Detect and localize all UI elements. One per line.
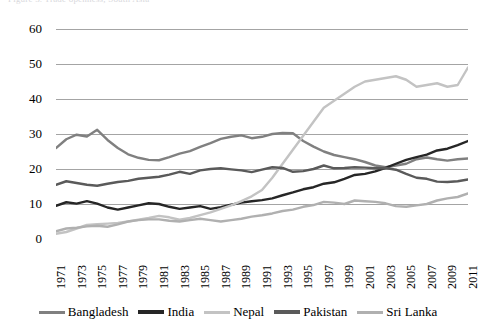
y-axis-tick-labels: 0102030405060	[0, 0, 52, 332]
y-axis-tick-10: 10	[0, 197, 42, 210]
series-line-bangladesh	[56, 130, 468, 167]
x-axis-tick-label: 2009	[446, 265, 459, 289]
x-axis-tick-1989: 1989	[234, 241, 248, 293]
x-axis-tick-2011: 2011	[461, 241, 475, 293]
x-axis-tick-label: 2011	[467, 265, 480, 289]
legend-swatch-icon	[204, 311, 230, 314]
x-axis-tick-label: 1979	[137, 265, 150, 289]
x-axis-tick-1981: 1981	[152, 241, 166, 293]
legend-label: Bangladesh	[68, 305, 129, 319]
series-lines	[56, 68, 468, 234]
x-axis-tick-label: 1987	[220, 265, 233, 289]
x-axis-tick-1999: 1999	[337, 241, 351, 293]
y-axis-tick-40: 40	[0, 92, 42, 105]
x-axis-tick-2007: 2007	[420, 241, 434, 293]
x-axis-tick-2001: 2001	[358, 241, 372, 293]
x-axis-tick-1995: 1995	[296, 241, 310, 293]
x-axis-tick-1997: 1997	[317, 241, 331, 293]
x-axis-tick-1993: 1993	[276, 241, 290, 293]
legend-item-nepal[interactable]: Nepal	[204, 305, 264, 319]
chart-legend: BangladeshIndiaNepalPakistanSri Lanka	[0, 300, 476, 324]
legend-item-pakistan[interactable]: Pakistan	[274, 305, 347, 319]
y-axis-tick-50: 50	[0, 57, 42, 70]
legend-label: Nepal	[233, 305, 264, 319]
x-axis-tick-label: 1995	[302, 265, 315, 289]
x-axis-tick-1985: 1985	[193, 241, 207, 293]
x-axis-tick-1971: 1971	[49, 241, 63, 293]
legend-swatch-icon	[357, 311, 383, 314]
y-axis-tick-20: 20	[0, 162, 42, 175]
x-axis-tick-label: 1999	[343, 265, 356, 289]
plot-area	[56, 29, 468, 239]
y-axis-tick-0: 0	[0, 232, 42, 245]
x-axis-tick-label: 1991	[261, 265, 274, 289]
x-axis-tick-label: 1977	[117, 265, 130, 289]
x-axis-tick-2003: 2003	[379, 241, 393, 293]
x-axis-tick-label: 1997	[323, 265, 336, 289]
x-axis-tick-label: 2007	[426, 265, 439, 289]
x-axis-tick-1987: 1987	[214, 241, 228, 293]
clipped-chart-title: Figure 3. Trade openness, South Asia	[8, 0, 308, 4]
legend-label: India	[167, 305, 194, 319]
x-axis-tick-1973: 1973	[70, 241, 84, 293]
x-axis-tick-1983: 1983	[173, 241, 187, 293]
x-axis-tick-2005: 2005	[399, 241, 413, 293]
x-axis-tick-label: 2003	[385, 265, 398, 289]
x-axis-tick-label: 1971	[55, 265, 68, 289]
legend-item-sri-lanka[interactable]: Sri Lanka	[357, 305, 437, 319]
y-axis-tick-30: 30	[0, 127, 42, 140]
x-axis-tick-label: 1981	[158, 265, 171, 289]
legend-item-india[interactable]: India	[138, 305, 194, 319]
x-axis-tick-1979: 1979	[131, 241, 145, 293]
legend-label: Sri Lanka	[386, 305, 437, 319]
x-axis-tick-1977: 1977	[111, 241, 125, 293]
legend-label: Pakistan	[303, 305, 347, 319]
x-axis-tick-1991: 1991	[255, 241, 269, 293]
x-axis-tick-label: 1973	[76, 265, 89, 289]
x-axis-tick-label: 1993	[282, 265, 295, 289]
x-axis-tick-label: 1975	[96, 265, 109, 289]
x-axis-tick-2009: 2009	[440, 241, 454, 293]
x-axis-tick-label: 1983	[179, 265, 192, 289]
x-axis-tick-label: 1985	[199, 265, 212, 289]
y-axis-tick-60: 60	[0, 22, 42, 35]
legend-swatch-icon	[274, 310, 300, 314]
x-axis-tick-label: 2005	[405, 265, 418, 289]
series-line-pakistan	[56, 166, 468, 186]
x-axis-tick-1975: 1975	[90, 241, 104, 293]
series-line-india	[56, 141, 468, 210]
x-axis-tick-label: 2001	[364, 265, 377, 289]
plot-svg	[56, 29, 468, 239]
x-axis-tick-label: 1989	[240, 265, 253, 289]
legend-item-bangladesh[interactable]: Bangladesh	[39, 305, 129, 319]
legend-swatch-icon	[138, 310, 164, 314]
x-axis-tick-labels: 1971197319751977197919811983198519871989…	[56, 241, 468, 297]
legend-swatch-icon	[39, 311, 65, 314]
